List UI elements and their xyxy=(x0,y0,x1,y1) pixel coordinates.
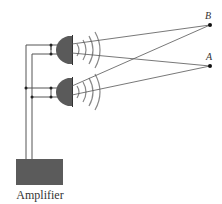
point-b-marker xyxy=(208,23,212,27)
bottom-sound-waves-icon xyxy=(77,74,100,110)
top-sound-waves-icon xyxy=(77,32,100,68)
amplifier-label: Amplifier xyxy=(12,188,68,203)
point-a-marker xyxy=(208,64,212,68)
sound-paths xyxy=(72,25,210,95)
top-speaker-icon xyxy=(56,35,73,65)
diagram-canvas xyxy=(0,0,222,204)
wire-junctions xyxy=(25,44,53,99)
bottom-speaker-icon xyxy=(56,77,73,107)
wiring xyxy=(26,45,58,159)
point-a-label: A xyxy=(206,51,212,62)
point-b-label: B xyxy=(205,10,211,21)
amplifier-box xyxy=(16,159,63,185)
